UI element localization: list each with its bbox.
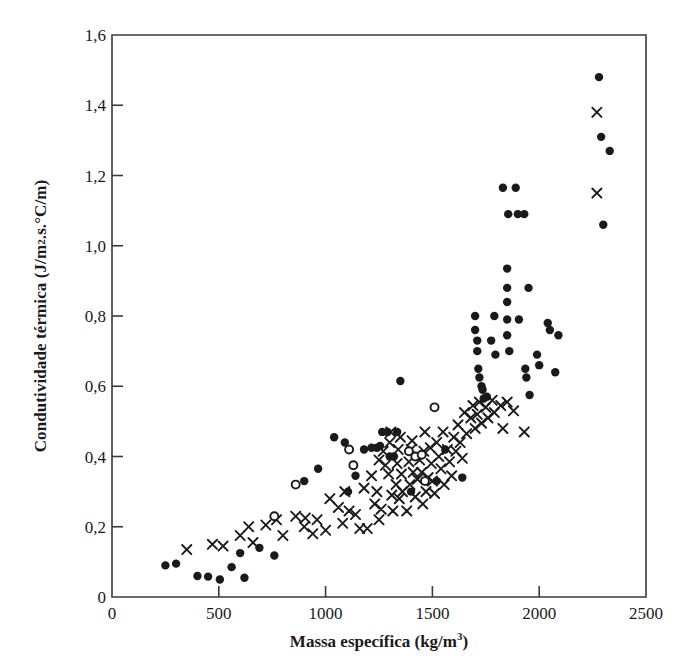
data-point-filled-circle [503,284,511,292]
data-point-filled-circle [193,572,201,580]
data-point-filled-circle [351,472,359,480]
data-point-filled-circle [535,361,543,369]
data-point-x-cross [397,469,406,478]
data-point-filled-circle [475,373,483,381]
data-point-filled-circle [504,210,512,218]
data-point-x-cross [434,452,443,461]
data-point-filled-circle [471,312,479,320]
data-point-x-cross [592,108,601,117]
data-point-filled-circle [512,184,520,192]
data-point-x-cross [308,529,317,538]
data-point-filled-circle [473,347,481,355]
data-point-filled-circle [314,465,322,473]
data-point-x-cross [458,454,467,463]
data-point-filled-circle [521,364,529,372]
data-point-filled-circle [551,368,559,376]
data-point-x-cross [408,436,417,445]
plot-area [0,0,692,664]
data-point-filled-circle [520,210,528,218]
data-point-x-cross [445,457,454,466]
data-point-x-cross [385,438,394,447]
data-point-x-cross [430,489,439,498]
data-point-filled-circle [503,315,511,323]
data-point-x-cross [359,484,368,493]
data-point-filled-circle [525,391,533,399]
data-point-x-cross [420,427,429,436]
data-point-x-cross [520,427,529,436]
data-point-filled-circle [478,386,486,394]
data-point-filled-circle [503,264,511,272]
data-point-open-circle [421,477,429,485]
data-point-x-cross [377,505,386,514]
data-point-filled-circle [216,575,224,583]
data-point-filled-circle [458,473,466,481]
data-point-x-cross [261,520,270,529]
data-point-filled-circle [161,561,169,569]
data-point-open-circle [418,451,426,459]
data-point-x-cross [367,471,376,480]
data-point-x-cross [300,522,309,531]
series-open-circle [270,403,438,520]
data-point-x-cross [462,429,471,438]
data-point-x-cross [447,471,456,480]
data-point-filled-circle [595,73,603,81]
data-point-x-cross [393,459,402,468]
data-point-x-cross [381,461,390,470]
plot-frame [112,35,646,597]
data-point-x-cross [440,480,449,489]
data-point-x-cross [236,531,245,540]
data-point-filled-circle [300,477,308,485]
data-point-filled-circle [227,563,235,571]
data-point-x-cross [418,499,427,508]
data-point-x-cross [244,522,253,531]
data-point-x-cross [372,487,381,496]
data-point-filled-circle [503,331,511,339]
data-point-x-cross [453,420,462,429]
data-point-x-cross [384,469,393,478]
data-point-filled-circle [204,572,212,580]
data-point-filled-circle [330,433,338,441]
data-point-x-cross [456,438,465,447]
data-point-filled-circle [605,147,613,155]
data-point-filled-circle [490,312,498,320]
data-point-x-cross [363,524,372,533]
data-point-x-cross [374,515,383,524]
data-point-filled-circle [524,284,532,292]
data-point-x-cross [218,541,227,550]
data-point-x-cross [402,506,411,515]
data-point-x-cross [301,513,310,522]
data-point-filled-circle [546,326,554,334]
data-point-x-cross [338,519,347,528]
data-point-x-cross [291,512,300,521]
data-point-filled-circle [505,347,513,355]
data-point-x-cross [432,438,441,447]
data-point-x-cross [208,540,217,549]
data-point-x-cross [334,503,343,512]
data-point-filled-circle [360,445,368,453]
data-markers [161,73,614,584]
data-point-x-cross [248,538,257,547]
data-point-x-cross [592,188,601,197]
data-point-x-cross [325,494,334,503]
data-point-x-cross [312,515,321,524]
data-point-x-cross [388,506,397,515]
data-point-open-circle [349,461,357,469]
data-point-x-cross [498,424,507,433]
data-point-x-cross [438,427,447,436]
data-point-filled-circle [487,336,495,344]
data-point-x-cross [394,445,403,454]
data-point-filled-circle [172,559,180,567]
data-point-x-cross [509,406,518,415]
data-point-filled-circle [396,377,404,385]
data-point-filled-circle [471,326,479,334]
data-point-filled-circle [499,184,507,192]
data-point-filled-circle [473,336,481,344]
data-point-filled-circle [515,315,523,323]
data-point-open-circle [292,481,300,489]
data-point-x-cross [436,464,445,473]
data-point-filled-circle [240,573,248,581]
data-point-filled-circle [236,549,244,557]
data-point-filled-circle [474,364,482,372]
series-x-cross [182,108,601,555]
data-point-filled-circle [503,298,511,306]
